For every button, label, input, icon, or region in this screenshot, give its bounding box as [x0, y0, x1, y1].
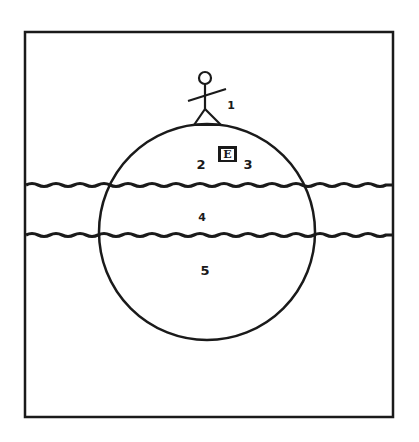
label-3: 3	[243, 158, 252, 171]
stick-figure-legs	[194, 109, 221, 125]
stick-figure-head	[199, 72, 211, 84]
e-box-letter: E	[220, 148, 234, 161]
wavy-line-lower	[26, 234, 394, 237]
label-2: 2	[196, 158, 205, 171]
stick-figure-icon	[188, 72, 226, 125]
outer-frame	[25, 32, 393, 417]
label-1: 1	[227, 100, 235, 111]
label-4: 4	[198, 212, 206, 223]
wavy-line-upper	[26, 184, 394, 187]
diagram-canvas	[0, 0, 419, 442]
e-box: E	[218, 146, 237, 162]
sphere-outline	[99, 124, 315, 340]
label-5: 5	[200, 264, 209, 277]
stick-figure-arms	[188, 89, 226, 101]
